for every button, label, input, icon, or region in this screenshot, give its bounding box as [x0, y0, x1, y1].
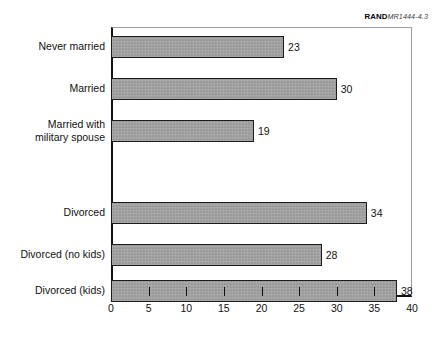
x-tick-label: 20: [256, 302, 268, 314]
bar-value-label: 28: [326, 250, 338, 261]
bars-container: 233019342838: [111, 27, 412, 295]
x-tick-mark: [337, 287, 338, 296]
x-tick-mark: [374, 287, 375, 296]
bar-row: 28: [111, 244, 412, 266]
category-label: Married: [0, 82, 105, 95]
category-label: Divorced (no kids): [0, 248, 105, 261]
x-tick-label: 25: [293, 302, 305, 314]
x-tick-label: 5: [146, 302, 152, 314]
bar-value-label: 23: [288, 42, 300, 53]
bar[interactable]: [111, 78, 337, 100]
bar-chart-figure: RANDMR1444-4.3 Never marriedMarriedMarri…: [0, 0, 440, 337]
category-label-line: Married with: [0, 118, 105, 131]
x-tick-label: 40: [406, 302, 418, 314]
source-credit: RANDMR1444-4.3: [365, 13, 429, 21]
category-axis-labels: Never marriedMarriedMarried withmilitary…: [0, 27, 105, 295]
x-tick-label: 0: [108, 302, 114, 314]
bar-row: 23: [111, 36, 412, 58]
category-label: Divorced (kids): [0, 284, 105, 297]
x-tick-label: 10: [180, 302, 192, 314]
category-label-line: Divorced: [0, 206, 105, 219]
category-label-line: military spouse: [0, 131, 105, 144]
bar-row: 19: [111, 120, 412, 142]
rand-logo-text: RAND: [365, 12, 388, 21]
bar[interactable]: [111, 244, 322, 266]
x-tick-mark: [224, 287, 225, 296]
x-axis-tick-labels: 0510152025303540: [111, 302, 412, 318]
x-tick-label: 35: [369, 302, 381, 314]
x-tick-mark: [186, 287, 187, 296]
category-label-line: Divorced (kids): [0, 284, 105, 297]
category-label: Married withmilitary spouse: [0, 118, 105, 143]
x-tick-label: 15: [218, 302, 230, 314]
bar-value-label: 30: [341, 84, 353, 95]
category-label-line: Never married: [0, 40, 105, 53]
bar-row: 34: [111, 202, 412, 224]
bar-value-label: 34: [371, 208, 383, 219]
category-label-line: Divorced (no kids): [0, 248, 105, 261]
category-label-line: Married: [0, 82, 105, 95]
category-label: Divorced: [0, 206, 105, 219]
bar-row: 30: [111, 78, 412, 100]
document-id-text: MR1444-4.3: [387, 12, 428, 21]
bar[interactable]: [111, 202, 367, 224]
x-tick-mark: [299, 287, 300, 296]
category-label: Never married: [0, 40, 105, 53]
x-tick-mark: [262, 287, 263, 296]
x-tick-label: 30: [331, 302, 343, 314]
x-tick-mark: [149, 287, 150, 296]
bar[interactable]: [111, 120, 254, 142]
bar-value-label: 19: [258, 126, 270, 137]
bar[interactable]: [111, 36, 284, 58]
x-axis-tick-marks: [111, 287, 412, 297]
